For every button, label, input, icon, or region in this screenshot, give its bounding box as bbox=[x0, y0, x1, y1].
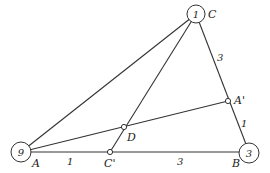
mass-c: 1 bbox=[193, 9, 199, 20]
label-a-prime: A' bbox=[233, 94, 245, 107]
label-c-prime: C' bbox=[104, 157, 115, 170]
label-d: D bbox=[126, 131, 136, 144]
segment-label-c-prime-b: 3 bbox=[177, 156, 183, 167]
segment-label-a-prime-b: 1 bbox=[241, 118, 247, 129]
mass-b: 3 bbox=[246, 148, 252, 159]
mass-point-diagram: 9 3 1 A B C A' D C' 1 3 3 1 bbox=[0, 0, 270, 173]
edge-bc bbox=[196, 14, 249, 152]
label-b: B bbox=[231, 157, 240, 170]
label-a: A bbox=[31, 157, 40, 170]
mass-a: 9 bbox=[18, 147, 25, 158]
segment-label-ac-prime: 1 bbox=[67, 156, 73, 167]
point-a-prime bbox=[225, 98, 230, 103]
point-d bbox=[121, 124, 126, 129]
label-c: C bbox=[208, 8, 217, 21]
segment-label-ca-prime: 3 bbox=[217, 52, 223, 63]
edge-ac bbox=[21, 14, 196, 152]
cevian-cc-prime bbox=[110, 14, 196, 152]
point-c-prime bbox=[107, 149, 112, 154]
